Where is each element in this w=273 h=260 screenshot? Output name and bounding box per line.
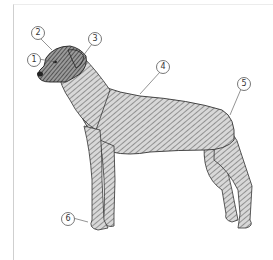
callout-4: 4: [156, 60, 170, 74]
callout-6: 6: [61, 212, 75, 226]
callout-1: 1: [27, 53, 41, 67]
callout-2-label: 2: [35, 28, 40, 37]
callout-1-label: 1: [31, 55, 36, 64]
callout-3-label: 3: [92, 34, 97, 43]
callout-2: 2: [31, 26, 45, 40]
callout-6-label: 6: [65, 214, 70, 223]
callout-3: 3: [88, 32, 102, 46]
callout-4-label: 4: [160, 62, 165, 71]
callout-5-label: 5: [241, 79, 246, 88]
dog-nose: [37, 72, 43, 77]
callout-5: 5: [237, 77, 251, 91]
